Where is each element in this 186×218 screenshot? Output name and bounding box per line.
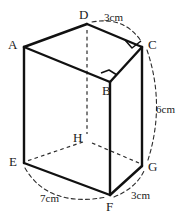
vertex-label-B: B xyxy=(102,84,111,97)
edge-B-C xyxy=(110,47,142,82)
vertex-label-H: H xyxy=(73,131,82,144)
hidden-edges xyxy=(27,30,139,163)
vertex-label-F: F xyxy=(106,200,113,213)
vertex-label-C: C xyxy=(148,38,157,51)
dimension-arcs xyxy=(25,21,157,200)
dimension-label-right: 6cm xyxy=(156,104,175,115)
dimension-arc-top xyxy=(92,21,141,41)
edge-H-G xyxy=(92,143,139,163)
dimension-label-top: 3cm xyxy=(104,12,123,23)
right-angle-at-B xyxy=(101,70,117,75)
vertex-label-G: G xyxy=(148,160,157,173)
vertex-label-D: D xyxy=(79,8,88,21)
dimension-label-bottom-right: 3cm xyxy=(131,190,150,201)
edge-A-D xyxy=(24,24,87,47)
vertex-label-A: A xyxy=(8,38,17,51)
solid-edges xyxy=(24,24,142,195)
edge-D-C xyxy=(87,24,142,47)
edge-A-B xyxy=(24,47,110,82)
geometry-diagram: A D C B E H G F 3cm 6cm 3cm 7cm xyxy=(0,0,186,218)
dimension-arc-bottom-left xyxy=(25,168,107,199)
edge-E-F xyxy=(24,163,110,195)
dimension-label-bottom-left: 7cm xyxy=(40,193,59,204)
vertex-label-E: E xyxy=(9,155,17,168)
